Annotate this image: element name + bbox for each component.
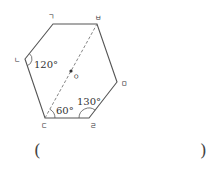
answer-row: ( ) <box>0 138 214 162</box>
close-paren: ) <box>200 138 207 162</box>
vertex-label-g: ㄱ <box>48 13 54 21</box>
angle-label-1: 60° <box>56 105 74 116</box>
vertex-label-r: ㄹ <box>90 122 96 130</box>
open-paren: ( <box>34 138 41 162</box>
angle-label-0: 120° <box>34 59 58 70</box>
vertex-label-d: ㄷ <box>41 122 47 130</box>
answer-blank[interactable] <box>46 138 196 162</box>
vertex-label-b: ㅂ <box>95 14 101 22</box>
hexagon-diagram: ㄱㄴㄷㄹㅁㅂㅇ120°60°130° <box>0 0 214 135</box>
vertex-label-n: ㄴ <box>14 56 20 64</box>
angle-label-2: 130° <box>77 96 101 107</box>
center-point-label: ㅇ <box>73 73 79 81</box>
angle-arc-d <box>50 109 55 118</box>
vertex-label-m: ㅁ <box>121 80 127 88</box>
